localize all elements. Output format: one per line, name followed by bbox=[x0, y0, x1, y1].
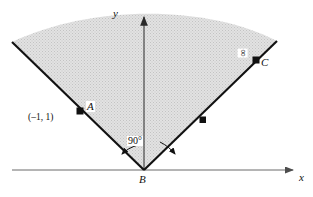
geometry-drawing bbox=[0, 0, 313, 197]
point-marker-C bbox=[253, 57, 260, 64]
angle-label-90: 90° bbox=[127, 136, 143, 146]
point-a-coordinates: (–1, 1) bbox=[27, 113, 54, 123]
figure-canvas: y x B A C (–1, 1) 90° ∞ bbox=[0, 0, 313, 197]
point-label-c: C bbox=[261, 57, 268, 68]
infinity-icon: ∞ bbox=[238, 48, 248, 57]
point-marker-unlabeled bbox=[200, 117, 207, 124]
y-axis-label: y bbox=[113, 8, 118, 19]
point-marker-A bbox=[77, 108, 84, 115]
point-label-a: A bbox=[86, 101, 95, 112]
vertex-label-b: B bbox=[139, 174, 146, 185]
x-axis-label: x bbox=[299, 172, 304, 183]
